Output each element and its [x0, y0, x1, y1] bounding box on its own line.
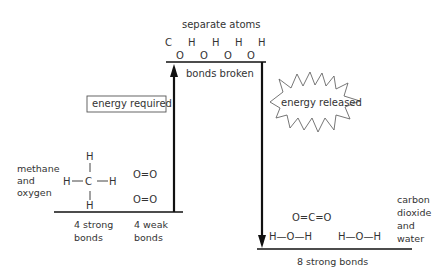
atom-h: H [258, 37, 266, 48]
methane-h-left: H [63, 176, 71, 187]
weak-bonds-label: bonds [134, 232, 163, 244]
carbon-dioxide-molecule: O=C=O [292, 212, 331, 223]
methane-h-right: H [109, 176, 117, 187]
oxygen-molecule: O=O [133, 169, 157, 180]
atom-o: O [247, 50, 255, 61]
atom-c: C [165, 37, 172, 48]
water-molecule: H—O—H [338, 231, 381, 242]
up-arrowhead-icon [170, 64, 178, 77]
energy-required-label: energy required [92, 98, 172, 109]
down-arrowhead-icon [258, 235, 266, 248]
products-label-line: carbon [397, 194, 430, 206]
oxygen-molecule: O=O [133, 194, 157, 205]
atom-o: O [176, 50, 184, 61]
reactants-label-line: and [17, 175, 35, 187]
water-molecule: H—O—H [269, 231, 312, 242]
separate-atoms-title: separate atoms [182, 19, 260, 30]
atom-h: H [212, 37, 220, 48]
energy-released-label: energy released [281, 97, 362, 108]
methane-h-top: H [86, 151, 94, 162]
bonds-broken-label: bonds broken [186, 68, 254, 79]
atom-o: O [224, 50, 232, 61]
products-label-line: dioxide [397, 207, 431, 219]
products-label-line: water [397, 233, 424, 245]
atom-h: H [188, 37, 196, 48]
methane-h-bottom: H [86, 200, 94, 211]
atom-h: H [235, 37, 243, 48]
product-bonds-label: 8 strong bonds [297, 256, 368, 268]
atom-o: O [200, 50, 208, 61]
reactants-label-line: oxygen [17, 187, 52, 199]
methane-c: C [85, 176, 92, 187]
reactants-label-line: methane [17, 163, 60, 175]
products-label-line: and [397, 220, 415, 232]
strong-bonds-label: 4 strong [74, 219, 113, 231]
strong-bonds-label: bonds [74, 232, 103, 244]
weak-bonds-label: 4 weak [134, 219, 168, 231]
